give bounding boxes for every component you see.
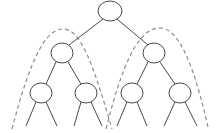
tree-node-root <box>98 1 122 21</box>
tree-node-leaf-1 <box>30 83 52 103</box>
binary-tree-diagram <box>0 0 216 133</box>
dangling-edge <box>74 102 81 126</box>
dangling-edge <box>91 102 102 126</box>
dangling-edge <box>46 102 57 126</box>
dangling-edge <box>117 102 127 126</box>
edge-root-right <box>117 19 148 45</box>
tree-node-leaf-2 <box>75 83 97 103</box>
dangling-edge <box>26 102 36 126</box>
edge-right-leaf3 <box>137 62 148 84</box>
tree-node-leaf-3 <box>121 83 143 103</box>
edge-left-leaf1 <box>46 62 56 84</box>
dangling-edge <box>164 102 175 126</box>
tree-node-right-child <box>143 43 165 63</box>
dangling-edge <box>137 102 147 126</box>
tree-nodes <box>30 1 191 103</box>
dangling-edge <box>185 102 197 126</box>
edge-root-left <box>69 19 103 45</box>
edge-left-leaf2 <box>68 62 81 84</box>
tree-edges <box>26 19 197 126</box>
tree-node-leaf-4 <box>169 83 191 103</box>
tree-node-left-child <box>51 43 73 63</box>
edge-right-leaf4 <box>160 62 175 84</box>
